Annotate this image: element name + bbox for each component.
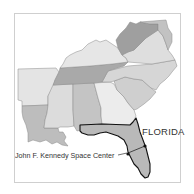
- southeast-us-map: [0, 0, 194, 194]
- ksc-leader-line: [118, 153, 127, 155]
- ksc-marker-east: [143, 144, 146, 147]
- florida-label: FLORIDA: [142, 126, 185, 137]
- ksc-label: John F. Kennedy Space Center: [15, 151, 115, 160]
